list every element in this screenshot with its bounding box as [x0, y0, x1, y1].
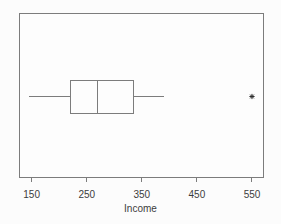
x-tick-label: 350 [133, 189, 150, 200]
iqr-box [70, 80, 133, 113]
boxplot-figure: 150250350450550 Income [0, 0, 281, 224]
plot-border [19, 13, 263, 177]
x-axis-label: Income [0, 203, 281, 214]
x-tick-label: 250 [78, 189, 95, 200]
x-tick-label: 450 [189, 189, 206, 200]
boxplot-chart: 150250350450550 [0, 0, 281, 224]
outlier-marker [249, 94, 254, 99]
x-tick-label: 150 [23, 189, 40, 200]
x-tick-label: 550 [244, 189, 261, 200]
